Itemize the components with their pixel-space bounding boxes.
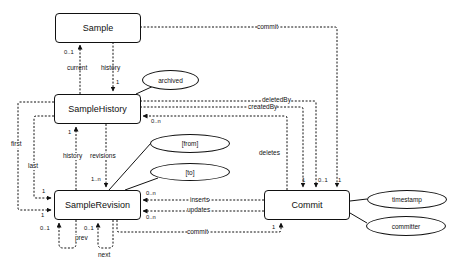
prev-edge: [59, 220, 76, 248]
attr-timestamp[interactable]: timestamp: [367, 190, 447, 209]
rel-history-rev: history: [63, 153, 82, 160]
card-deletes: 0..n: [151, 119, 161, 125]
entity-sample-revision[interactable]: SampleRevision: [54, 190, 141, 220]
card-first: 1: [41, 213, 44, 219]
attr-timestamp-label: timestamp: [392, 196, 422, 203]
rel-last: last: [28, 163, 38, 170]
card-revisions: 1..n: [91, 177, 101, 183]
attr-committer[interactable]: committer: [366, 216, 446, 236]
attr-committer-label: committer: [392, 223, 421, 230]
card-commit-deleted: 0..1: [318, 178, 328, 184]
entity-sample-revision-label: SampleRevision: [65, 200, 130, 210]
card-commit-rev: 1: [272, 225, 275, 231]
timestamp-link: [350, 199, 367, 201]
card-prev: 0..1: [40, 226, 50, 232]
attr-to[interactable]: [to]: [150, 163, 230, 181]
entity-commit[interactable]: Commit: [264, 190, 350, 220]
rel-next: next: [98, 252, 110, 259]
last-edge: [34, 116, 54, 198]
rel-revisions: revisions: [90, 153, 116, 160]
entity-sample[interactable]: Sample: [55, 13, 141, 43]
card-commit-sample: 1: [338, 178, 341, 184]
rel-commit-bottom: commit: [187, 229, 208, 236]
rel-deletes: deletes: [259, 150, 280, 157]
rel-created-by: createdBy: [248, 104, 277, 111]
rel-history: history: [101, 65, 120, 72]
attr-from-label: [from]: [182, 140, 199, 147]
rel-inserts: inserts: [190, 197, 209, 204]
card-commit-deletes: 1: [302, 178, 305, 184]
card-last: 1: [42, 189, 45, 195]
attr-archived[interactable]: archived: [142, 70, 199, 90]
rel-commit-top: commit: [257, 24, 278, 31]
card-history: 1: [116, 80, 119, 86]
card-next: 0..1: [84, 226, 94, 232]
attr-from[interactable]: [from]: [150, 134, 230, 153]
card-updates: 0..n: [146, 215, 156, 221]
next-edge: [98, 220, 113, 248]
entity-sample-history[interactable]: SampleHistory: [54, 94, 141, 124]
card-current: 0..1: [64, 50, 74, 56]
entity-sample-label: Sample: [83, 23, 114, 33]
card-history-rev: 1: [68, 130, 71, 136]
rel-prev: prev: [75, 235, 88, 242]
rel-current: current: [67, 65, 87, 72]
rel-first: first: [11, 141, 21, 148]
attr-archived-label: archived: [158, 77, 183, 84]
first-edge: [18, 102, 54, 210]
card-inserts: 0..n: [146, 191, 156, 197]
to-link: [125, 178, 158, 190]
committer-link: [350, 213, 367, 223]
attr-to-label: [to]: [185, 169, 194, 176]
entity-sample-history-label: SampleHistory: [68, 104, 127, 114]
entity-commit-label: Commit: [292, 200, 323, 210]
rel-updates: updates: [187, 207, 210, 214]
